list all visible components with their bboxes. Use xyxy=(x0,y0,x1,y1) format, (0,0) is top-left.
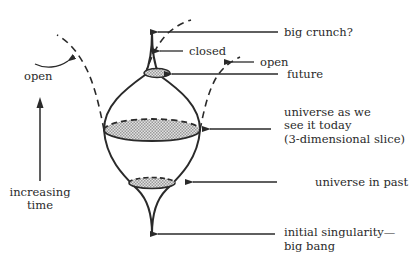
label-time-2: time xyxy=(27,198,53,212)
label-big-crunch: big crunch? xyxy=(284,25,353,39)
label-past: universe in past xyxy=(315,175,409,189)
label-open-left: open xyxy=(24,69,53,83)
today-slice xyxy=(104,119,200,141)
label-closed: closed xyxy=(189,44,227,58)
label-time-1: increasing xyxy=(9,185,71,199)
universe-diagram: big crunch? closed open future universe … xyxy=(0,0,409,266)
past-slice xyxy=(129,178,175,189)
future-slice xyxy=(144,69,170,78)
label-today-2: see it today xyxy=(284,118,352,132)
label-open-right: open xyxy=(260,55,289,69)
open-left-arrow xyxy=(35,61,68,67)
label-singularity-2: big bang xyxy=(284,239,336,253)
label-today-3: (3-dimensional slice) xyxy=(284,132,405,146)
time-arrow xyxy=(37,97,44,181)
label-today-1: universe as we xyxy=(284,105,371,119)
label-singularity-1: initial singularity— xyxy=(284,225,395,239)
label-future: future xyxy=(287,67,323,81)
